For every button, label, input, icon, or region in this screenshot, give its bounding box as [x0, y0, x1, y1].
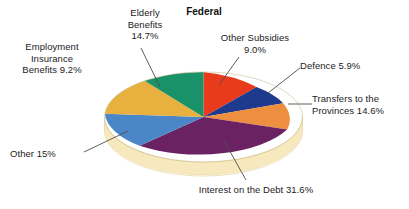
slice-label-transfers-to-the-provinces: Transfers to the Provinces 14.6%	[312, 93, 407, 116]
slice-label-interest-on-the-debt: Interest on the Debt 31.6%	[176, 184, 336, 196]
slice-label-employment-insurance-benefits: Employment Insurance Benefits 9.2%	[4, 41, 100, 76]
pie-chart-figure: Federal Elderly Benefits 14.7% Employmen…	[0, 0, 409, 209]
pie-slices	[105, 72, 290, 155]
slice-label-defence: Defence 5.9%	[300, 60, 392, 72]
slice-label-other-subsidies: Other Subsidies 9.0%	[206, 32, 304, 55]
slice-label-other: Other 15%	[10, 148, 84, 160]
slice-label-elderly-benefits: Elderly Benefits 14.7%	[108, 7, 182, 42]
leader-line-defence	[268, 68, 300, 93]
